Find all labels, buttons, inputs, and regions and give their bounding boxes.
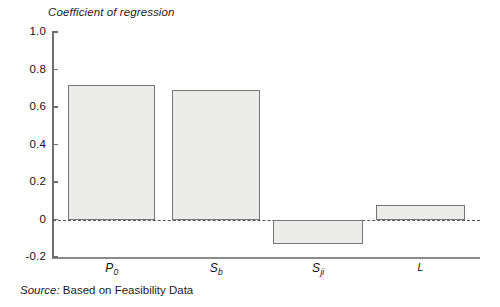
x-axis-label: L [418, 261, 424, 273]
y-tick-label: 1.0 [29, 25, 46, 37]
source-label: Source: [20, 284, 60, 296]
y-tick-label: 0.6 [29, 100, 46, 112]
y-tick-mark [52, 106, 58, 107]
y-tick-mark [52, 256, 58, 257]
y-tick-label: 0 [39, 213, 46, 225]
x-axis-label: P0 [105, 261, 118, 275]
x-axis-label: Sb [210, 261, 223, 275]
y-tick-label: 0.4 [29, 138, 46, 150]
y-tick-label: -0.2 [25, 250, 46, 262]
bar [172, 90, 260, 219]
y-tick-mark [52, 31, 58, 32]
figure-container: Coefficient of regression 1.00.80.60.40.… [0, 0, 500, 307]
y-tick-label: 0.2 [29, 175, 46, 187]
zero-reference-line [53, 220, 480, 221]
y-tick-mark [52, 144, 58, 145]
bar [376, 205, 465, 220]
source-note: Source: Based on Feasibility Data [20, 284, 193, 296]
x-axis-line [52, 257, 480, 259]
bar [273, 220, 363, 244]
bar [68, 85, 155, 219]
y-tick-mark [52, 69, 58, 70]
x-axis-label: Sji [312, 261, 324, 275]
y-tick-label: 0.8 [29, 63, 46, 75]
plot-area: 1.00.80.60.40.20-0.2 P0SbSjiL [0, 0, 500, 307]
source-text: Based on Feasibility Data [63, 284, 193, 296]
y-tick-mark [52, 181, 58, 182]
